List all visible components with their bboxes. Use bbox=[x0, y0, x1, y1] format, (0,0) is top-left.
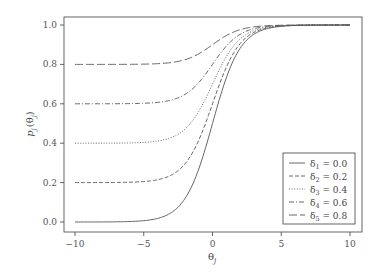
x-axis-label: θj bbox=[208, 251, 217, 265]
y-axis: 0.00.20.40.60.81.0 bbox=[43, 20, 64, 227]
y-tick-label: 1.0 bbox=[43, 20, 58, 30]
x-tick-label: 10 bbox=[344, 239, 356, 249]
y-tick-label: 0.6 bbox=[43, 99, 58, 109]
x-tick-label: −5 bbox=[137, 239, 151, 249]
y-tick-label: 0.8 bbox=[43, 59, 58, 69]
x-axis: −10−50510 bbox=[66, 232, 356, 249]
curve-delta-5 bbox=[75, 25, 350, 64]
y-tick-label: 0.2 bbox=[43, 178, 57, 188]
y-tick-label: 0.0 bbox=[43, 217, 58, 227]
y-tick-label: 0.4 bbox=[43, 138, 58, 148]
curve-delta-4 bbox=[75, 25, 350, 104]
x-tick-label: 0 bbox=[210, 239, 216, 249]
legend: δ1 = 0.0δ2 = 0.2δ3 = 0.4δ4 = 0.6δ5 = 0.8 bbox=[283, 153, 355, 224]
curve-delta-3 bbox=[75, 25, 350, 143]
x-tick-label: 5 bbox=[278, 239, 284, 249]
x-tick-label: −10 bbox=[66, 239, 85, 249]
logistic-guessing-chart: −10−50510 0.00.20.40.60.81.0 δ1 = 0.0δ2 … bbox=[0, 0, 381, 280]
y-axis-label: pj(θj) bbox=[24, 111, 38, 137]
